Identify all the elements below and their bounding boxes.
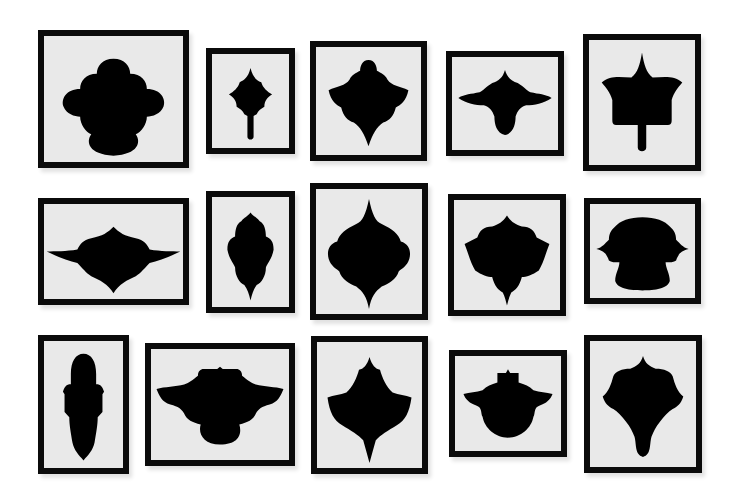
silhouette-spire-lobes-icon bbox=[316, 189, 422, 314]
artwork-frame-5 bbox=[583, 34, 701, 171]
artwork-frame-2 bbox=[206, 48, 295, 154]
silhouette-winged-drop-icon bbox=[452, 57, 558, 150]
silhouette-crown-bowl-icon bbox=[151, 349, 289, 460]
artwork-frame-13 bbox=[311, 336, 428, 474]
artwork-frame-9 bbox=[448, 194, 566, 316]
silhouette-mushroom-icon bbox=[590, 204, 695, 298]
silhouette-diamond-knob-icon bbox=[316, 47, 421, 155]
silhouette-tall-lobed-icon bbox=[212, 197, 289, 307]
silhouette-star-shield-icon bbox=[454, 200, 560, 310]
silhouette-tulip-drip-icon bbox=[590, 341, 696, 467]
artwork-frame-14 bbox=[449, 350, 567, 457]
artwork-frame-7 bbox=[206, 191, 295, 313]
silhouette-lidded-pot-icon bbox=[455, 356, 561, 451]
artwork-frame-4 bbox=[446, 51, 564, 156]
artwork-frame-3 bbox=[310, 41, 427, 161]
artwork-frame-15 bbox=[584, 335, 702, 473]
artwork-frame-10 bbox=[584, 198, 701, 304]
artwork-frame-12 bbox=[145, 343, 295, 466]
artwork-frame-8 bbox=[310, 183, 428, 320]
silhouette-spiked-stem-icon bbox=[212, 54, 289, 148]
silhouette-wide-wings-icon bbox=[44, 204, 183, 299]
silhouette-leaf-spade-icon bbox=[317, 342, 422, 468]
artwork-frame-6 bbox=[38, 198, 189, 305]
silhouette-totem-icon bbox=[44, 341, 123, 468]
silhouette-bell-stem-icon bbox=[589, 40, 695, 165]
artwork-frame-1 bbox=[38, 30, 189, 168]
artwork-frame-11 bbox=[38, 335, 129, 474]
silhouette-cloud-dome-icon bbox=[44, 36, 183, 162]
